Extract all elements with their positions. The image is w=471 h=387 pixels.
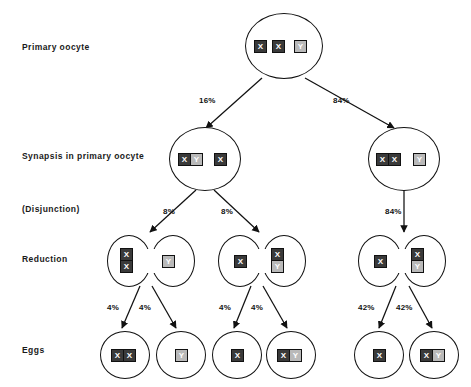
meiosis-nondisjunction-diagram: Primary oocyte Synapsis in primary oocyt… — [0, 0, 471, 387]
chromosome-y: Y — [289, 349, 302, 362]
chromosome-y: Y — [162, 255, 175, 268]
cell-egg-5: X — [354, 331, 404, 379]
pct-oocyte-to-synapsis-left: 16% — [199, 96, 216, 105]
lobe-join-mask — [144, 249, 158, 274]
chromosome-pair-xy: X Y — [420, 349, 445, 362]
chromosome-x: X — [374, 255, 387, 268]
chromosome-x: X — [123, 349, 136, 362]
pct-egg-2: 4% — [139, 303, 151, 312]
chromosome-pair-xx-vertical: X X — [120, 248, 133, 273]
chromosome-x: X — [234, 255, 247, 268]
pct-egg-6: 42% — [396, 303, 413, 312]
row-label-eggs: Eggs — [22, 345, 45, 355]
cell-reduction-2: X X Y — [218, 235, 306, 287]
lobe-join-mask — [255, 249, 269, 274]
cell-reduction-1: X X Y — [107, 235, 195, 287]
chromosome-pair-xy-vertical: X Y — [271, 248, 284, 273]
cell-egg-2: Y — [156, 331, 206, 379]
cell-synapsis-right: X X Y — [368, 127, 440, 191]
chromosome-pair-xx: X X — [111, 349, 136, 362]
pct-oocyte-to-synapsis-right: 84% — [333, 96, 350, 105]
chromosome-x: X — [373, 349, 386, 362]
chromosome-x: X — [254, 40, 267, 53]
edge-reduction-1-to-egg-2 — [152, 286, 176, 328]
chromosome-pair-xx: X X — [376, 153, 401, 166]
pct-egg-3: 4% — [219, 303, 231, 312]
cell-egg-4: X Y — [266, 331, 316, 379]
row-label-disjunction: (Disjunction) — [22, 204, 80, 214]
cell-primary-oocyte: X X Y — [245, 13, 323, 79]
pct-egg-4: 4% — [251, 303, 263, 312]
chromosome-pair-xy: X Y — [178, 153, 203, 166]
edge-reduction-2-to-egg-3 — [234, 286, 251, 328]
chromosome-y: Y — [413, 153, 426, 166]
row-label-reduction: Reduction — [22, 254, 68, 264]
row-label-primary-oocyte: Primary oocyte — [22, 42, 90, 52]
edge-reduction-3-to-egg-5 — [379, 286, 396, 328]
cell-egg-3: X — [212, 331, 262, 379]
chromosome-y: Y — [271, 260, 284, 273]
pct-synapsis-left-to-reduction-2: 8% — [221, 207, 233, 216]
chromosome-y: Y — [411, 260, 424, 273]
chromosome-y: Y — [294, 40, 307, 53]
pct-synapsis-right-to-reduction-3: 84% — [385, 207, 402, 216]
chromosome-pair-xy: X Y — [277, 349, 302, 362]
cell-egg-1: X X — [100, 331, 150, 379]
chromosome-x: X — [388, 153, 401, 166]
pct-egg-5: 42% — [358, 303, 375, 312]
pct-egg-1: 4% — [107, 303, 119, 312]
row-label-synapsis: Synapsis in primary oocyte — [22, 151, 144, 161]
chromosome-x: X — [214, 153, 227, 166]
cell-egg-6: X Y — [409, 331, 459, 379]
lobe-join-mask — [395, 249, 409, 274]
chromosome-y: Y — [190, 153, 203, 166]
chromosome-y: Y — [175, 349, 188, 362]
edge-reduction-1-to-egg-1 — [122, 286, 140, 328]
pct-synapsis-left-to-reduction-1: 8% — [163, 207, 175, 216]
chromosome-x: X — [231, 349, 244, 362]
chromosome-x: X — [272, 40, 285, 53]
chromosome-pair-xy-vertical: X Y — [411, 248, 424, 273]
cell-synapsis-left: X Y X — [169, 127, 241, 191]
chromosome-y: Y — [432, 349, 445, 362]
edge-reduction-2-to-egg-4 — [263, 286, 287, 328]
cell-reduction-3: X X Y — [358, 235, 446, 287]
chromosome-x: X — [120, 260, 133, 273]
connector-lines — [0, 0, 471, 387]
